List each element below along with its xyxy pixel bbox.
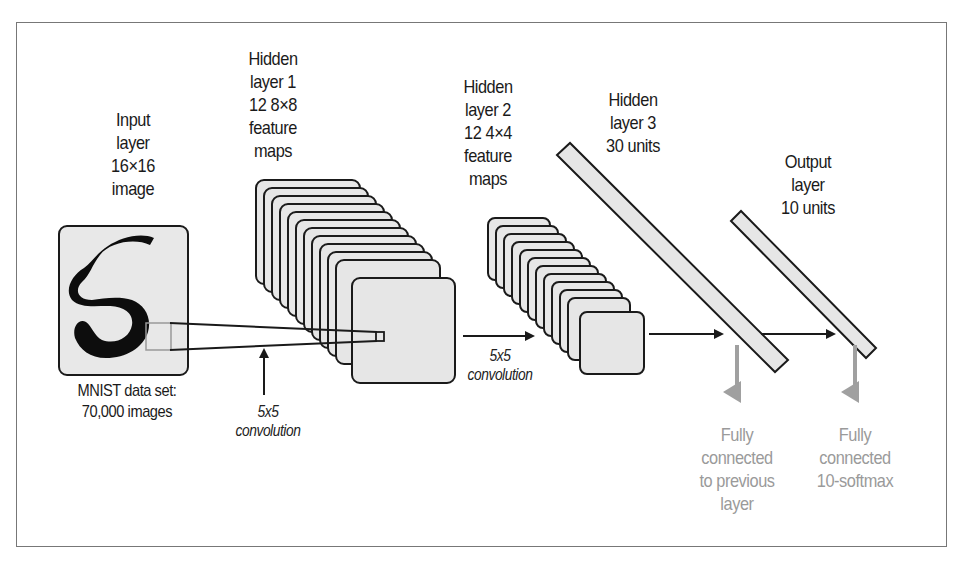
conv2-label: 5x5 convolution <box>461 346 538 384</box>
fc-previous-label: Fully connected to previous layer <box>681 423 793 515</box>
input-layer-label: Input layer 16×16 image <box>99 108 168 200</box>
conv1-label: 5x5 convolution <box>229 402 306 440</box>
hidden-layer-2-label: Hidden layer 2 12 4×4 feature maps <box>454 75 523 190</box>
input-image <box>59 226 188 375</box>
dataset-caption: MNIST data set: 70,000 images <box>63 380 192 422</box>
hidden-layer-3-label: Hidden layer 3 30 units <box>594 88 671 157</box>
hidden-layer-1-maps <box>256 180 455 383</box>
hidden-layer-1-label: Hidden layer 1 12 8×8 feature maps <box>239 47 308 162</box>
fc-softmax-label: Fully connected 10-softmax <box>803 423 906 492</box>
output-layer-label: Output layer 10 units <box>769 150 846 219</box>
